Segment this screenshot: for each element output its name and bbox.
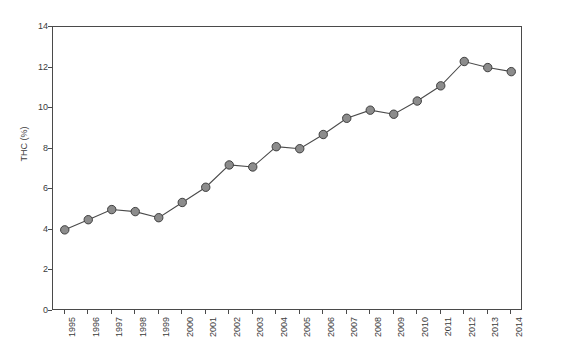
data-point-2007: [343, 114, 351, 122]
thc-markers: [61, 57, 516, 234]
x-tick-label-2004: 2004: [280, 317, 289, 337]
x-tick-mark-2011: [440, 310, 441, 314]
x-tick-label-2007: 2007: [350, 317, 359, 337]
x-axis-ticks: 1995199619971998199920002001200220032004…: [52, 310, 522, 357]
x-tick-mark-1999: [158, 310, 159, 314]
clipped-top-caption: [60, 0, 520, 6]
x-tick-mark-2005: [299, 310, 300, 314]
data-point-2006: [319, 130, 327, 138]
x-tick-mark-2009: [393, 310, 394, 314]
data-point-2010: [413, 97, 421, 105]
data-point-2004: [272, 142, 280, 150]
y-tick-label-2: 2: [14, 265, 48, 274]
x-tick-mark-2008: [369, 310, 370, 314]
x-tick-label-2002: 2002: [233, 317, 242, 337]
data-point-2009: [390, 110, 398, 118]
y-tick-label-4: 4: [14, 224, 48, 233]
x-tick-label-2006: 2006: [327, 317, 336, 337]
data-point-2002: [225, 161, 233, 169]
x-tick-label-1996: 1996: [92, 317, 101, 337]
x-tick-label-1998: 1998: [139, 317, 148, 337]
x-tick-label-2009: 2009: [397, 317, 406, 337]
x-tick-mark-2006: [322, 310, 323, 314]
x-tick-label-1997: 1997: [115, 317, 124, 337]
data-point-2003: [249, 163, 257, 171]
x-tick-label-2005: 2005: [303, 317, 312, 337]
x-tick-label-2008: 2008: [374, 317, 383, 337]
x-tick-mark-2007: [346, 310, 347, 314]
y-tick-label-8: 8: [14, 143, 48, 152]
x-tick-label-2012: 2012: [468, 317, 477, 337]
x-tick-mark-2004: [275, 310, 276, 314]
y-tick-label-12: 12: [14, 62, 48, 71]
y-tick-label-10: 10: [14, 103, 48, 112]
y-tick-label-14: 14: [14, 22, 48, 31]
x-tick-mark-1995: [64, 310, 65, 314]
x-tick-label-2001: 2001: [209, 317, 218, 337]
x-tick-mark-2010: [416, 310, 417, 314]
data-point-2012: [460, 57, 468, 65]
data-point-2001: [202, 183, 210, 191]
x-tick-mark-2002: [228, 310, 229, 314]
x-tick-label-2000: 2000: [186, 317, 195, 337]
x-tick-mark-2012: [463, 310, 464, 314]
data-point-2011: [437, 82, 445, 90]
plot-area: [52, 26, 522, 310]
y-tick-label-0: 0: [14, 306, 48, 315]
data-point-1999: [155, 213, 163, 221]
data-point-2008: [366, 106, 374, 114]
x-tick-mark-1997: [111, 310, 112, 314]
x-tick-label-2010: 2010: [421, 317, 430, 337]
data-point-1998: [131, 207, 139, 215]
data-point-2005: [296, 145, 304, 153]
x-tick-mark-1996: [87, 310, 88, 314]
data-point-2013: [484, 63, 492, 71]
x-tick-label-1999: 1999: [162, 317, 171, 337]
data-point-2000: [178, 198, 186, 206]
x-tick-mark-2003: [252, 310, 253, 314]
chart-figure: THC (%) 02468101214 19951996199719981999…: [0, 0, 564, 357]
y-tick-label-6: 6: [14, 184, 48, 193]
x-tick-mark-2000: [181, 310, 182, 314]
x-tick-label-2013: 2013: [491, 317, 500, 337]
series-layer: [53, 27, 523, 311]
data-point-2014: [507, 67, 515, 75]
data-point-1997: [108, 205, 116, 213]
x-tick-mark-2001: [205, 310, 206, 314]
x-tick-label-2003: 2003: [256, 317, 265, 337]
x-tick-label-1995: 1995: [68, 317, 77, 337]
x-tick-mark-2014: [510, 310, 511, 314]
data-point-1996: [84, 216, 92, 224]
x-tick-label-2014: 2014: [515, 317, 524, 337]
y-axis-ticks: 02468101214: [0, 26, 48, 310]
data-point-1995: [61, 226, 69, 234]
x-tick-mark-2013: [487, 310, 488, 314]
x-tick-mark-1998: [134, 310, 135, 314]
x-tick-label-2011: 2011: [444, 317, 453, 336]
